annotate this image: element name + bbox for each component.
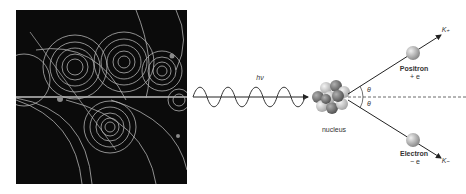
- nucleus-label: nucleus: [316, 126, 352, 134]
- positron-label: Positron: [396, 65, 432, 73]
- electron-charge: − e: [400, 158, 430, 166]
- theta-bottom-label: θ: [364, 100, 374, 108]
- electron-label: Electron: [396, 150, 432, 158]
- nucleus-icon: [312, 80, 350, 114]
- k-minus-label: K₋: [436, 157, 456, 165]
- electron-particle: [406, 133, 420, 147]
- positron-particle: [406, 46, 420, 60]
- theta-top-label: θ: [364, 86, 374, 94]
- k-plus-label: K₊: [436, 26, 456, 34]
- photon-wave: [193, 87, 308, 107]
- positron-charge: + e: [400, 73, 430, 81]
- photon-label: hν: [250, 74, 270, 82]
- pair-production-diagram: hν nucleus Positron + e Electron − e K₊ …: [0, 0, 466, 194]
